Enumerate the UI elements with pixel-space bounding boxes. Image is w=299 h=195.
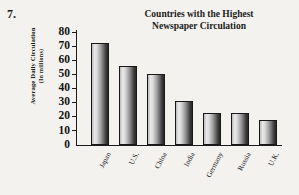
bar-china <box>147 74 165 145</box>
y-tick-label-row: 70 <box>50 40 70 52</box>
bar-india <box>175 101 193 145</box>
x-label-us: U.S. <box>111 150 141 194</box>
y-tick-40 <box>72 88 77 89</box>
bar-germany <box>203 113 221 146</box>
bar-russia <box>231 113 249 146</box>
y-tick-label: 70 <box>50 40 70 52</box>
y-tick-label-row: 40 <box>50 82 70 94</box>
y-tick-80 <box>72 32 77 33</box>
y-tick-label-row: 20 <box>50 110 70 122</box>
x-label-germany: Germany <box>195 150 225 194</box>
y-tick-label: 30 <box>50 96 70 108</box>
bar-uk <box>259 120 277 145</box>
x-label-japan: Japan <box>83 150 113 194</box>
y-tick-label: 50 <box>50 68 70 80</box>
x-label-india: India <box>167 150 197 194</box>
y-tick-label: 40 <box>50 82 70 94</box>
bar-japan <box>91 43 109 145</box>
y-tick-label-row: 60 <box>50 54 70 66</box>
y-tick-label-row: 80 <box>50 26 70 38</box>
y-tick-label-row: 30 <box>50 96 70 108</box>
x-label-russia: Russia <box>223 150 253 194</box>
x-label-uk: U.K. <box>251 150 281 194</box>
y-tick-10 <box>72 130 77 131</box>
y-tick-label: 80 <box>50 26 70 38</box>
y-tick-label-row: 50 <box>50 68 70 80</box>
y-tick-70 <box>72 46 77 47</box>
y-tick-60 <box>72 60 77 61</box>
y-tick-label-row: 10 <box>50 125 70 137</box>
bar-us <box>119 66 137 145</box>
y-tick-label-row: 0 <box>50 139 70 151</box>
bar-chart-plot: Average Daily Circulation (In millions) … <box>0 0 299 195</box>
y-tick-20 <box>72 116 77 117</box>
y-tick-label: 10 <box>50 125 70 137</box>
y-tick-50 <box>72 74 77 75</box>
y-tick-label: 60 <box>50 54 70 66</box>
y-axis-title: Average Daily Circulation (In millions) <box>29 10 51 122</box>
y-axis-title-units: (In millions) <box>37 10 45 122</box>
x-label-china: China <box>139 150 169 194</box>
y-axis-title-main: Average Daily Circulation <box>29 27 36 104</box>
y-tick-label: 0 <box>50 139 70 151</box>
y-tick-30 <box>72 102 77 103</box>
y-tick-label: 20 <box>50 110 70 122</box>
worksheet-page: 7. Countries with the Highest Newspaper … <box>0 0 299 195</box>
